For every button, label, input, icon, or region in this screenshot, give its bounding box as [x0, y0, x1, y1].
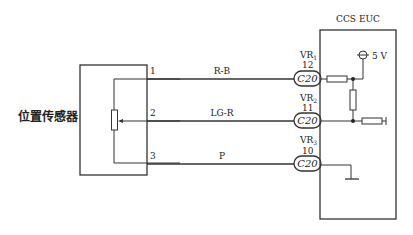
ecu-pin-1: 12	[302, 60, 313, 70]
resistor-icon	[350, 90, 356, 110]
ecu-label: CCS EUC	[336, 14, 380, 24]
svg-text:C20: C20	[297, 73, 318, 84]
wire-1-color: R-B	[214, 66, 231, 76]
svg-text:C20: C20	[297, 158, 318, 169]
wire-2-color: LG-R	[210, 108, 233, 118]
wire-1: 1 R-B	[147, 66, 294, 79]
wire-3: 3 P	[147, 151, 294, 164]
pin-1-label: 1	[150, 66, 156, 76]
supply-5v-icon	[357, 51, 369, 59]
connector-2: C20 VR2 11	[294, 93, 321, 128]
sensor-label: 位置传感器	[18, 109, 79, 124]
ecu-pin-2: 11	[302, 103, 313, 113]
pin-2-label: 2	[150, 108, 156, 118]
connector-3: C20 VR3 10	[294, 135, 321, 171]
ecu-internal-circuit: 5 V	[321, 51, 388, 179]
svg-text:C20: C20	[297, 115, 318, 126]
junction-dot-icon	[351, 119, 355, 123]
connector-1: C20 VR1 12	[294, 50, 321, 86]
ecu-terminal-3: VR3	[299, 135, 317, 146]
supply-label: 5 V	[372, 51, 388, 61]
resistor-icon	[362, 118, 382, 124]
wiring-diagram: 位置传感器 1 R-B 2 LG-R 3 P CCS EUC C20 VR1 1…	[0, 0, 413, 235]
wire-3-color: P	[219, 151, 225, 161]
pin-3-label: 3	[150, 151, 156, 161]
wire-2: 2 LG-R	[147, 108, 294, 121]
ecu-pin-3: 10	[302, 146, 314, 156]
resistor-icon	[327, 76, 347, 82]
